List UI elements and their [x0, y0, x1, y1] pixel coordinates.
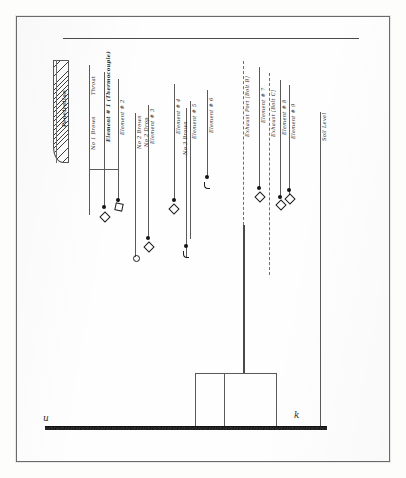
wedge-spine	[56, 60, 57, 163]
label-no1-brown: No 1 Brown	[91, 116, 96, 150]
label-element-6: Element # 6	[209, 97, 214, 133]
marker-dot-no3-brown	[184, 244, 188, 248]
label-element-2: Element # 2	[120, 99, 125, 135]
marker-hook-element-6	[204, 182, 210, 189]
label-element-8: Element # 8	[282, 99, 287, 135]
lead-line-element-7	[259, 67, 260, 188]
label-penetration: Penetration	[62, 90, 67, 127]
screenshot-root: Penetration Throat No 1 Brown Element # …	[0, 0, 406, 478]
label-element-7: Element # 7	[261, 87, 266, 123]
label-element-3: Element # 3	[150, 108, 155, 144]
marker-diamond-element-8	[275, 199, 286, 210]
label-exhaust-bolt-c: Exhaust [Bolt C]	[271, 90, 276, 137]
stem-to-base-box	[243, 225, 245, 373]
marker-diamond-element-9	[284, 193, 295, 204]
marker-dot-element-7	[257, 186, 261, 190]
lead-line-element-8	[280, 80, 281, 197]
label-element-5: Element # 5	[192, 103, 197, 139]
ground-mark-right: k	[294, 410, 299, 420]
ground-hatching	[45, 426, 327, 430]
marker-diamond-element-7	[254, 191, 265, 202]
label-no2-brown: No 2 Brown	[137, 115, 142, 149]
marker-dot-element-2	[116, 198, 120, 202]
label-element-9: Element # 9	[291, 103, 296, 139]
marker-hook-no3-brown	[183, 251, 189, 258]
label-throat: Throat	[91, 76, 96, 95]
label-element-4: Element # 4	[176, 98, 181, 134]
label-soil-level: Soil Level	[322, 113, 327, 141]
marker-circle-no2-brown	[133, 255, 140, 262]
marker-dot-element-6	[205, 175, 209, 179]
base-box	[195, 373, 277, 429]
label-element-1: Element # 1 (Thermocouple)	[106, 51, 111, 142]
label-exhaust-port-b: Exhaust Port [Bolt B]	[245, 76, 250, 137]
lead-line-element-9	[289, 85, 290, 195]
marker-square-element-2	[114, 202, 123, 211]
marker-dot-element-9	[287, 188, 291, 192]
ground-mark-left: u	[43, 413, 49, 423]
lead-line-soil-level	[320, 112, 321, 426]
marker-diamond-element-4	[168, 203, 179, 214]
marker-dot-element-4	[172, 198, 176, 202]
drawing-sheet: Penetration Throat No 1 Brown Element # …	[16, 16, 390, 462]
label-no3-brown: No 3 Brown	[183, 121, 188, 155]
marker-dot-element-3	[146, 236, 150, 240]
marker-diamond-element-1	[99, 211, 110, 222]
marker-dot-element-1	[102, 205, 106, 209]
marker-diamond-element-3	[143, 241, 154, 252]
base-box-divider	[224, 374, 225, 428]
top-rule	[63, 38, 359, 39]
